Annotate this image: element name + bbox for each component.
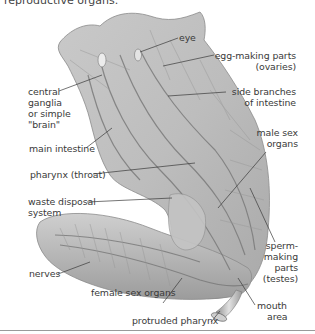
- label-testes-4: (testes): [263, 273, 298, 284]
- label-male-sex-1: male sex: [257, 127, 298, 138]
- label-ganglia-3: or simple: [28, 108, 71, 119]
- label-waste-1: waste disposal: [28, 196, 96, 207]
- label-protruded-pharynx: protruded pharynx: [132, 315, 218, 326]
- label-ganglia-1: central: [28, 86, 60, 97]
- label-eye: eye: [179, 32, 196, 43]
- right-eye: [135, 49, 142, 61]
- label-pharynx: pharynx (throat): [30, 169, 106, 180]
- left-eye: [98, 53, 106, 67]
- label-nerves: nerves: [29, 268, 60, 279]
- label-main-intestine: main intestine: [29, 143, 95, 154]
- label-waste-2: system: [28, 207, 61, 218]
- label-side-branches-2: of intestine: [244, 97, 296, 108]
- label-female-sex: female sex organs: [91, 287, 176, 298]
- label-ganglia-4: "brain": [28, 119, 60, 130]
- label-testes-1: sperm-: [266, 240, 298, 251]
- label-ovaries-1: egg-making parts: [215, 50, 296, 61]
- label-ovaries-2: (ovaries): [255, 61, 296, 72]
- label-testes-3: parts: [274, 262, 298, 273]
- label-mouth-2: area: [267, 311, 288, 322]
- label-testes-2: making: [264, 251, 298, 262]
- bottom-rule: [0, 330, 315, 331]
- label-ganglia-2: ganglia: [28, 97, 62, 108]
- label-male-sex-2: organs: [267, 138, 298, 149]
- label-side-branches-1: side branches: [232, 86, 296, 97]
- label-mouth-1: mouth: [257, 300, 287, 311]
